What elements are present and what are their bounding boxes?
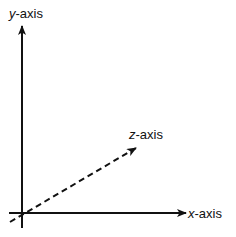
z-axis-line	[10, 148, 136, 222]
y-axis-label: y-axis	[8, 6, 43, 21]
x-axis-label: x-axis	[187, 206, 222, 221]
z-axis-label: z-axis	[128, 127, 163, 142]
axes-diagram: y-axis x-axis z-axis	[0, 0, 236, 237]
